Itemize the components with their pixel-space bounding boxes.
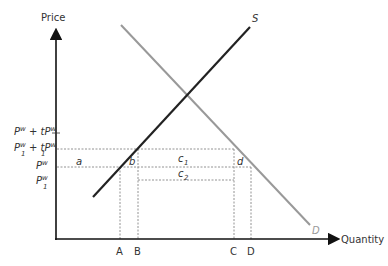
svg-text:1: 1: [43, 183, 47, 191]
price-label-tariff-1: Pw + tPw 1 1: [14, 141, 56, 158]
area-d: d: [237, 156, 244, 167]
quantity-D: D: [247, 246, 255, 257]
quantity-C: C: [230, 246, 237, 257]
svg-text:1: 1: [21, 150, 25, 158]
quantity-B: B: [134, 246, 141, 257]
area-a: a: [76, 156, 82, 167]
svg-text:1: 1: [184, 159, 188, 167]
guide-lines: [57, 149, 251, 239]
demand-curve: [121, 25, 310, 225]
supply-curve: [93, 27, 250, 197]
price-label-tariff: Pw + tPw: [14, 125, 56, 137]
svg-text:1: 1: [41, 150, 45, 158]
demand-label: D: [312, 225, 320, 236]
quantity-A: A: [116, 246, 123, 257]
area-c2: c 2: [178, 168, 189, 182]
svg-text:Pw: Pw: [36, 159, 48, 171]
tariff-diagram: Price Quantity S D Pw + tPw Pw + tPw 1 1…: [0, 0, 388, 266]
svg-text:2: 2: [184, 174, 189, 182]
svg-text:Pw + tPw: Pw + tPw: [14, 125, 56, 137]
area-c1: c 1: [178, 153, 188, 167]
price-label-world: Pw: [36, 159, 48, 171]
x-axis-label: Quantity: [341, 234, 384, 245]
y-axis-label: Price: [41, 12, 65, 23]
area-b: b: [129, 156, 135, 167]
supply-label: S: [252, 13, 259, 24]
price-label-world-1: Pw 1: [36, 174, 48, 191]
